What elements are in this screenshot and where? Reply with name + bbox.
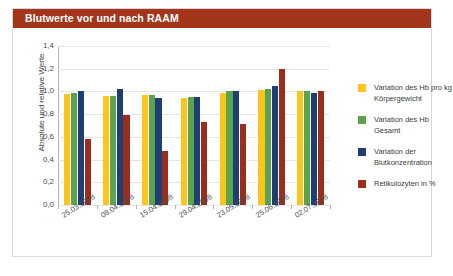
y-tick-labels: 0,00,20,40,60,81,01,21,4 (21, 46, 54, 206)
page-title: Blutwerte vor und nach RAAM (25, 12, 179, 24)
bar (233, 91, 239, 205)
bar (64, 94, 70, 205)
legend-label: Retikulozyten in % (374, 179, 453, 190)
gridline (58, 46, 330, 47)
gridline (58, 91, 330, 92)
bar (297, 91, 303, 205)
bar (78, 91, 84, 205)
x-tick-mark (330, 205, 331, 209)
chart-legend: Variation des Hb pro kg KörpergewichtVar… (358, 83, 453, 202)
x-tick-mark (252, 205, 253, 209)
legend-swatch-icon (358, 180, 366, 188)
x-tick-mark (291, 205, 292, 209)
bar (142, 95, 148, 205)
x-tick-mark (136, 205, 137, 209)
bar (226, 91, 232, 205)
legend-entry: Retikulozyten in % (358, 179, 453, 191)
x-tick-mark (97, 205, 98, 209)
bar (272, 86, 278, 205)
chart-title-bar: Blutwerte vor und nach RAAM (13, 9, 431, 28)
bar (194, 97, 200, 205)
bar (265, 89, 271, 205)
x-tick-mark (58, 205, 59, 209)
legend-swatch-icon (358, 148, 366, 156)
plot-area (58, 46, 330, 205)
legend-swatch-icon (358, 84, 366, 92)
y-tick-label: 0,0 (24, 200, 54, 209)
y-tick-label: 1,2 (24, 64, 54, 73)
bar (110, 96, 116, 205)
legend-swatch-icon (358, 116, 366, 124)
bar (181, 98, 187, 205)
y-tick-label: 1,4 (24, 41, 54, 50)
bar (155, 98, 161, 205)
bar (258, 90, 264, 205)
y-tick-label: 1,0 (24, 86, 54, 95)
bar (318, 91, 324, 205)
x-tick-mark (175, 205, 176, 209)
bar (311, 93, 317, 205)
y-tick-label: 0,4 (24, 155, 54, 164)
bar (188, 97, 194, 205)
legend-label: Variation des Hb Gesamt (374, 115, 453, 136)
legend-label: Variation der Blutkonzentration (374, 147, 453, 168)
y-tick-label: 0,6 (24, 132, 54, 141)
bar (123, 115, 129, 205)
bar (71, 93, 77, 205)
legend-entry: Variation der Blutkonzentration (358, 147, 453, 168)
bar (117, 89, 123, 205)
bar (279, 69, 285, 205)
bar (149, 95, 155, 205)
bar (220, 93, 226, 205)
y-tick-label: 0,8 (24, 109, 54, 118)
plot-wrapper: Absolute und relative Werte 0,00,20,40,6… (13, 28, 431, 256)
bar (304, 91, 310, 205)
legend-entry: Variation des Hb pro kg Körpergewicht (358, 83, 453, 104)
legend-label: Variation des Hb pro kg Körpergewicht (374, 83, 453, 104)
x-tick-mark (213, 205, 214, 209)
bar (103, 96, 109, 205)
y-tick-label: 0,2 (24, 177, 54, 186)
legend-entry: Variation des Hb Gesamt (358, 115, 453, 136)
gridline (58, 69, 330, 70)
